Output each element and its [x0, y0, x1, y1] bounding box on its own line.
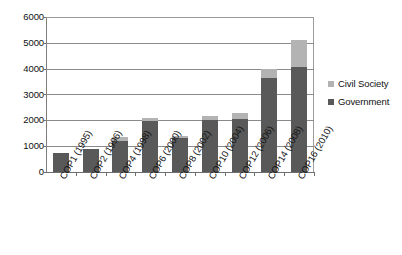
bar-segment-civil-society[interactable]: [291, 40, 307, 67]
legend-label-government: Government: [338, 97, 389, 107]
bar-segment-civil-society[interactable]: [142, 118, 158, 121]
y-tick-label: 2000: [4, 115, 44, 125]
plot-area: [46, 17, 314, 172]
x-tick-mark: [314, 172, 315, 176]
x-axis-labels: COP1 (1995)COP2 (1996)COP4 (1998)COP6 (2…: [46, 176, 314, 255]
bar-segment-civil-society[interactable]: [202, 116, 218, 120]
legend-swatch-civil-society: [328, 81, 334, 87]
y-tick-label: 0: [4, 167, 44, 177]
legend-swatch-government: [328, 99, 334, 105]
bar-series-group: [46, 17, 314, 172]
y-tick-label: 3000: [4, 90, 44, 100]
y-axis: 6000 5000 4000 3000 2000 1000 0: [0, 0, 44, 255]
legend-label-civil-society: Civil Society: [338, 79, 388, 89]
legend-item-civil-society[interactable]: Civil Society: [328, 76, 402, 91]
bar-segment-government[interactable]: [291, 67, 307, 172]
bar-chart: 6000 5000 4000 3000 2000 1000 0 COP1 (19…: [0, 0, 402, 255]
y-tick-label: 5000: [4, 38, 44, 48]
bar-segment-civil-society[interactable]: [232, 113, 248, 119]
legend-item-government[interactable]: Government: [328, 94, 402, 109]
y-tick-label: 1000: [4, 141, 44, 151]
y-tick-label: 4000: [4, 64, 44, 74]
legend: Civil Society Government: [328, 76, 402, 112]
bar-segment-civil-society[interactable]: [261, 69, 277, 78]
y-tick-label: 6000: [4, 12, 44, 22]
